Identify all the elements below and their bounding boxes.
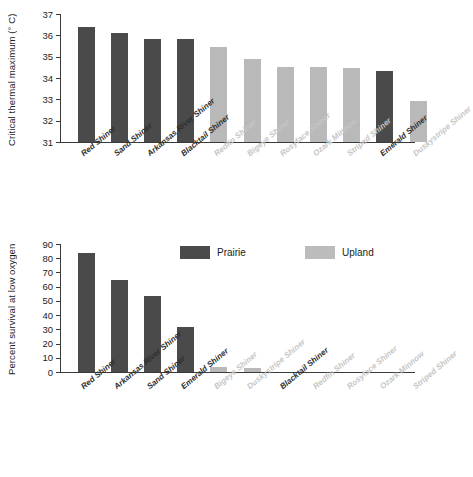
y-tick-label: 36: [26, 31, 53, 40]
y-tick-mark: [56, 35, 60, 36]
y-tick-mark: [56, 142, 60, 143]
y-axis-line-top: [60, 14, 61, 142]
plot-area-bottom: 0102030405060708090 Prairie Upland: [60, 244, 415, 372]
y-tick-mark: [56, 14, 60, 15]
y-tick-label: 40: [26, 311, 53, 320]
y-tick-label: 80: [26, 254, 53, 263]
legend-item-upland: Upland: [305, 246, 374, 259]
y-tick-label: 30: [26, 325, 53, 334]
y-tick-label: 50: [26, 296, 53, 305]
y-tick-mark: [56, 99, 60, 100]
y-tick-mark: [56, 57, 60, 58]
y-tick-mark: [56, 78, 60, 79]
y-tick-label: 33: [26, 95, 53, 104]
y-tick-label: 32: [26, 116, 53, 125]
legend-item-prairie: Prairie: [180, 246, 246, 259]
y-tick-label: 70: [26, 268, 53, 277]
y-tick-label: 37: [26, 10, 53, 19]
chart-panel-percent-survival: Percent survival at low oxygen 010203040…: [0, 228, 427, 477]
y-tick-label: 31: [26, 138, 53, 147]
x-axis-category-labels-bottom: Red ShinerArkansas River ShinerSand Shin…: [0, 228, 427, 229]
y-tick-mark: [56, 301, 60, 302]
y-axis-label-bottom: Percent survival at low oxygen: [6, 234, 17, 384]
y-tick-label: 0: [26, 368, 53, 377]
bar: [78, 27, 95, 142]
legend-label-upland: Upland: [342, 247, 374, 258]
y-tick-label: 10: [26, 353, 53, 362]
legend-swatch-upland-icon: [305, 246, 335, 259]
chart-panel-critical-thermal-maximum: Critical thermal maximum (° C) 313233343…: [0, 0, 427, 215]
y-tick-mark: [56, 315, 60, 316]
y-tick-label: 35: [26, 52, 53, 61]
y-axis-label-top: Critical thermal maximum (° C): [6, 10, 17, 150]
y-tick-mark: [56, 358, 60, 359]
y-tick-label: 34: [26, 74, 53, 83]
x-axis-category-labels-top: Red ShinerSand ShinerArkansas River Shin…: [0, 0, 427, 1]
legend-label-prairie: Prairie: [217, 247, 246, 258]
y-tick-mark: [56, 372, 60, 373]
plot-area-top: 31323334353637: [60, 14, 415, 142]
y-tick-label: 90: [26, 240, 53, 249]
y-tick-mark: [56, 287, 60, 288]
bar: [244, 368, 261, 372]
legend-swatch-prairie-icon: [180, 246, 210, 259]
chart-legend: Prairie Upland: [60, 244, 415, 274]
y-tick-mark: [56, 344, 60, 345]
y-tick-mark: [56, 329, 60, 330]
y-tick-label: 60: [26, 282, 53, 291]
y-tick-mark: [56, 121, 60, 122]
y-tick-label: 20: [26, 339, 53, 348]
